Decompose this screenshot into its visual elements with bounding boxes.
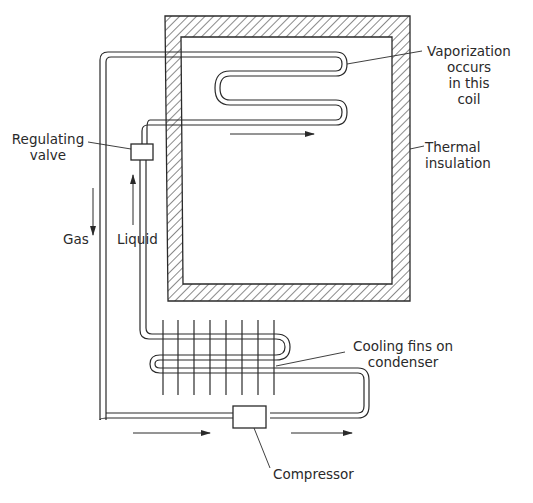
cooling-fins-leader: [276, 352, 345, 366]
thermal-insulation-label-line: insulation: [425, 155, 491, 171]
liquid-label: Liquid: [117, 231, 158, 247]
gas-line: [100, 413, 233, 420]
gas-label: Gas: [63, 231, 89, 247]
regulating-valve-leader: [88, 142, 131, 149]
cooling-fins-label: Cooling fins on condenser: [343, 338, 463, 370]
regulating-valve-label: Regulating valve: [8, 131, 88, 163]
compressor: [233, 406, 266, 428]
vaporization-label: Vaporization occurs in this coil: [423, 43, 515, 107]
cooling-fins: [163, 320, 274, 395]
regulating-valve-label-line: Regulating: [8, 131, 88, 147]
vaporization-label-line: Vaporization: [423, 43, 515, 59]
thermal-insulation-leader: [410, 146, 424, 149]
compressor-leader: [254, 428, 270, 468]
cooling-fins-label-line: condenser: [343, 354, 463, 370]
vaporization-label-line: occurs: [423, 59, 515, 75]
cooling-fins-label-line: Cooling fins on: [343, 338, 463, 354]
vaporization-label-line: coil: [423, 91, 515, 107]
regulating-valve-label-line: valve: [8, 147, 88, 163]
vaporization-label-line: in this: [423, 75, 515, 91]
regulating-valve: [131, 144, 153, 160]
thermal-insulation-label: Thermal insulation: [425, 139, 491, 171]
thermal-insulation-box: [165, 16, 410, 301]
vaporization-leader: [347, 51, 422, 64]
compressor-label: Compressor: [273, 466, 354, 482]
thermal-insulation-label-line: Thermal: [425, 139, 491, 155]
